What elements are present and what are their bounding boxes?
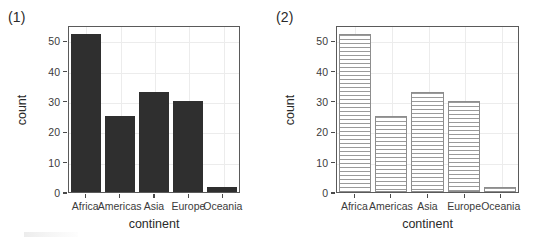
- bar-asia: [139, 92, 169, 192]
- bar-oceania: [207, 187, 237, 192]
- y-tick-mark: [63, 192, 67, 193]
- x-tick-mark: [500, 194, 501, 198]
- x-tick-mark: [153, 194, 154, 198]
- x-tick-label: Oceania: [481, 200, 520, 212]
- x-tick-label: Asia: [417, 200, 437, 212]
- y-tick-mark: [63, 71, 67, 72]
- y-tick-label: 20: [316, 126, 328, 138]
- bar-europe: [173, 101, 203, 192]
- y-tick-mark: [331, 41, 335, 42]
- panel-2-tag: (2): [276, 9, 294, 25]
- x-tick-label: Americas: [369, 200, 413, 212]
- x-tick-label: Oceania: [203, 200, 242, 212]
- y-tick-mark: [331, 162, 335, 163]
- panel-2: (2) 01020304050 AfricaAmericasAsiaEurope…: [268, 0, 536, 239]
- y-tick-label: 0: [322, 187, 328, 199]
- x-tick-mark: [464, 194, 465, 198]
- bar-europe: [448, 101, 480, 192]
- panel-1-y-axis: 01020304050: [0, 26, 68, 193]
- y-tick-label: 30: [48, 96, 60, 108]
- x-tick-label: Africa: [341, 200, 368, 212]
- panel-1: (1) 01020304050 AfricaAmericasAsiaEurope…: [0, 0, 268, 239]
- bar-africa: [71, 34, 101, 192]
- panel-1-x-axis-title: continent: [129, 217, 180, 231]
- y-tick-label: 40: [48, 66, 60, 78]
- x-tick-mark: [427, 194, 428, 198]
- x-tick-label: Asia: [144, 200, 164, 212]
- x-tick-label: Americas: [98, 200, 142, 212]
- bar-oceania: [484, 187, 516, 192]
- y-tick-label: 40: [316, 66, 328, 78]
- panel-2-x-axis: AfricaAmericasAsiaEuropeOceania: [336, 193, 519, 217]
- y-tick-label: 10: [316, 157, 328, 169]
- y-tick-label: 20: [48, 126, 60, 138]
- y-tick-mark: [63, 101, 67, 102]
- panel-2-plot-area: [336, 26, 519, 193]
- x-tick-label: Europe: [171, 200, 205, 212]
- panel-1-x-axis: AfricaAmericasAsiaEuropeOceania: [68, 193, 240, 217]
- bar-asia: [411, 92, 443, 192]
- panel-2-y-axis: 01020304050: [268, 26, 336, 193]
- panel-2-y-axis-title: count: [283, 94, 297, 125]
- y-tick-mark: [331, 192, 335, 193]
- x-tick-mark: [119, 194, 120, 198]
- y-tick-label: 50: [48, 35, 60, 47]
- x-tick-label: Europe: [447, 200, 481, 212]
- bar-series: [69, 27, 239, 192]
- panel-1-y-axis-title: count: [15, 94, 29, 125]
- y-tick-label: 50: [316, 35, 328, 47]
- bar-series: [337, 27, 518, 192]
- y-tick-mark: [63, 162, 67, 163]
- figure-two-panel-barcharts: (1) 01020304050 AfricaAmericasAsiaEurope…: [0, 0, 537, 239]
- panel-1-plot-area: [68, 26, 240, 193]
- bar-americas: [105, 116, 135, 192]
- x-tick-label: Africa: [72, 200, 99, 212]
- x-tick-mark: [188, 194, 189, 198]
- y-tick-mark: [331, 132, 335, 133]
- x-tick-mark: [222, 194, 223, 198]
- y-tick-mark: [331, 101, 335, 102]
- page-scan-artifact: [24, 232, 78, 237]
- bar-africa: [339, 34, 371, 192]
- y-tick-mark: [63, 132, 67, 133]
- y-tick-label: 10: [48, 157, 60, 169]
- panel-2-x-axis-title: continent: [402, 217, 453, 231]
- y-tick-mark: [63, 41, 67, 42]
- y-tick-mark: [331, 71, 335, 72]
- x-tick-mark: [390, 194, 391, 198]
- x-tick-mark: [85, 194, 86, 198]
- y-tick-label: 30: [316, 96, 328, 108]
- x-tick-mark: [354, 194, 355, 198]
- bar-americas: [375, 116, 407, 192]
- y-tick-label: 0: [54, 187, 60, 199]
- panel-1-tag: (1): [8, 9, 26, 25]
